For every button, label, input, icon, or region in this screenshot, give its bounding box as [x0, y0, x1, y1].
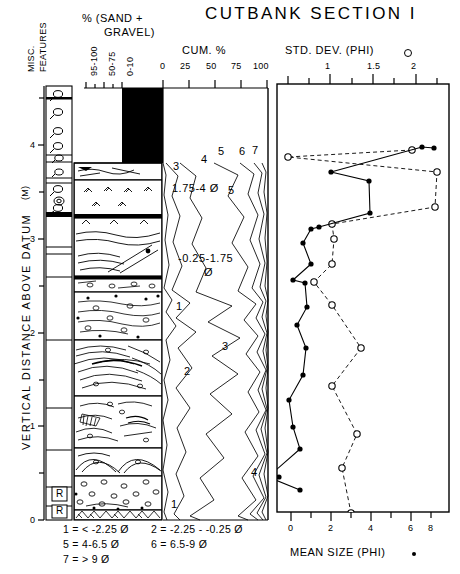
mean-size-axis-label: MEAN SIZE (PHI) [290, 546, 386, 558]
curve-label: 1 [176, 300, 182, 312]
legend-item-7: 7 = > 9 Ø [63, 553, 109, 565]
legend-item-5: 5 = 4-6.5 Ø [63, 538, 119, 550]
mean-tick-4: 4 [368, 523, 373, 533]
std-dev-line [288, 150, 437, 522]
mean-size-line [268, 147, 434, 490]
curve-label: 6 [239, 145, 245, 157]
std-dev-points [285, 147, 440, 516]
stratigraphic-figure [0, 0, 460, 574]
phi-annotation-1p75-4: 1.75-4 Ø [172, 182, 219, 194]
curve-label: 3 [173, 160, 179, 172]
curve-label: 4 [201, 153, 207, 165]
mean-tick-8: 8 [428, 523, 433, 533]
curve-label: 4 [251, 466, 257, 478]
curve-label: 5 [218, 145, 224, 157]
misc-marker-r-upper: R [56, 488, 64, 499]
curve-label: 1 [171, 498, 177, 510]
phi-annotation-neg0p25-1p75: -0.25-1.75 [178, 252, 233, 264]
mean-size-marker-filled-dot-icon [412, 552, 416, 556]
mean-tick-2: 2 [328, 523, 333, 533]
sand-gravel-bar [122, 88, 163, 163]
curve-label: 2 [184, 365, 190, 377]
curve-label: 5 [228, 184, 234, 196]
phi-annotation-phi-symbol: Ø [204, 266, 213, 278]
mean-tick-6: 6 [408, 523, 413, 533]
legend-item-2: 2 = -2.25 - -0.25 Ø [151, 523, 243, 535]
mean-tick-0: 0 [288, 523, 293, 533]
legend-item-6: 6 = 6.5-9 Ø [151, 538, 207, 550]
curve-label: 7 [252, 144, 258, 156]
legend-item-1: 1 = < -2.25 Ø [63, 523, 129, 535]
curve-label: 3 [222, 340, 228, 352]
misc-marker-r-lower: R [56, 505, 64, 516]
